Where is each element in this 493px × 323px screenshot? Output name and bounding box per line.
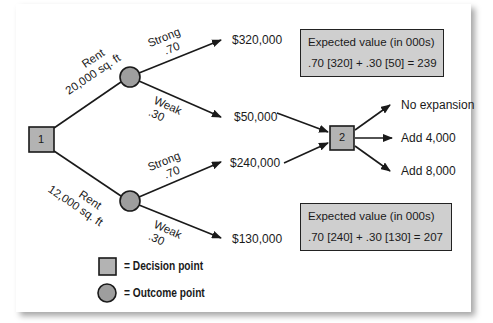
outcome-node-upper [120, 67, 140, 87]
option-no-expansion: No expansion [401, 98, 474, 112]
ev-top-formula: .70 [320] + .30 [50] = 239 [308, 57, 437, 69]
ev-bottom-formula: .70 [240] + .30 [130] = 207 [308, 231, 443, 243]
expected-value-box-bottom: Expected value (in 000s) .70 [240] + .30… [300, 203, 452, 251]
payoff-lower-strong: $240,000 [230, 156, 280, 170]
legend-circle-icon [98, 284, 116, 302]
decision-node-2-label: 2 [339, 131, 345, 143]
option-add-8000: Add 8,000 [401, 164, 456, 178]
ev-bottom-title: Expected value (in 000s) [308, 210, 451, 222]
payoff-upper-strong: $320,000 [232, 33, 282, 47]
legend-square-icon [99, 258, 116, 275]
payoff-lower-weak: $130,000 [232, 232, 282, 246]
option-add-4000: Add 4,000 [401, 131, 456, 145]
ev-top-title: Expected value (in 000s) [308, 36, 443, 48]
expected-value-box-top: Expected value (in 000s) .70 [320] + .30… [300, 29, 444, 77]
legend-outcome-label: = Outcome point [124, 286, 205, 300]
legend-decision-label: = Decision point [124, 259, 203, 273]
payoff-upper-weak: $50,000 [234, 110, 277, 124]
decision-node-1-label: 1 [38, 133, 44, 145]
outcome-node-lower [120, 191, 140, 211]
